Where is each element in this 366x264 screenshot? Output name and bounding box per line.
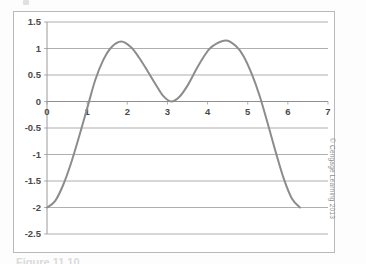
- y-axis-tick-label: 1.5: [28, 16, 42, 27]
- y-axis-tick-label: -1: [33, 149, 42, 160]
- x-axis-tick-label: 5: [245, 106, 251, 117]
- y-axis-tick-label: -2.5: [25, 228, 42, 239]
- y-axis-tick-label: -0.5: [25, 122, 42, 133]
- x-axis-tick-label: 0: [44, 106, 49, 117]
- line-chart: 1.510.50-0.5-1-1.5-2-2.501234567: [14, 12, 334, 252]
- chart-frame: 1.510.50-0.5-1-1.5-2-2.501234567: [13, 11, 335, 253]
- y-axis-tick-label: 0: [36, 96, 41, 107]
- x-axis-tick-label: 4: [205, 106, 211, 117]
- y-axis-tick-label: 1: [36, 43, 42, 54]
- x-axis-tick-label: 2: [125, 106, 130, 117]
- y-axis-tick-label: -1.5: [25, 175, 42, 186]
- data-series-line: [47, 41, 300, 208]
- copyright-credit: © Cengage Learning 2013: [324, 138, 336, 238]
- x-axis-tick-label: 6: [285, 106, 290, 117]
- figure-caption: Figure 11.10: [16, 256, 80, 264]
- x-axis-tick-label: 3: [165, 106, 170, 117]
- page-artifact: [23, 0, 29, 5]
- y-axis-tick-label: -2: [33, 202, 41, 213]
- figure-page: 1.510.50-0.5-1-1.5-2-2.501234567 © Cenga…: [0, 0, 366, 264]
- x-axis-tick-label: 7: [325, 106, 330, 117]
- y-axis-tick-label: 0.5: [28, 69, 42, 80]
